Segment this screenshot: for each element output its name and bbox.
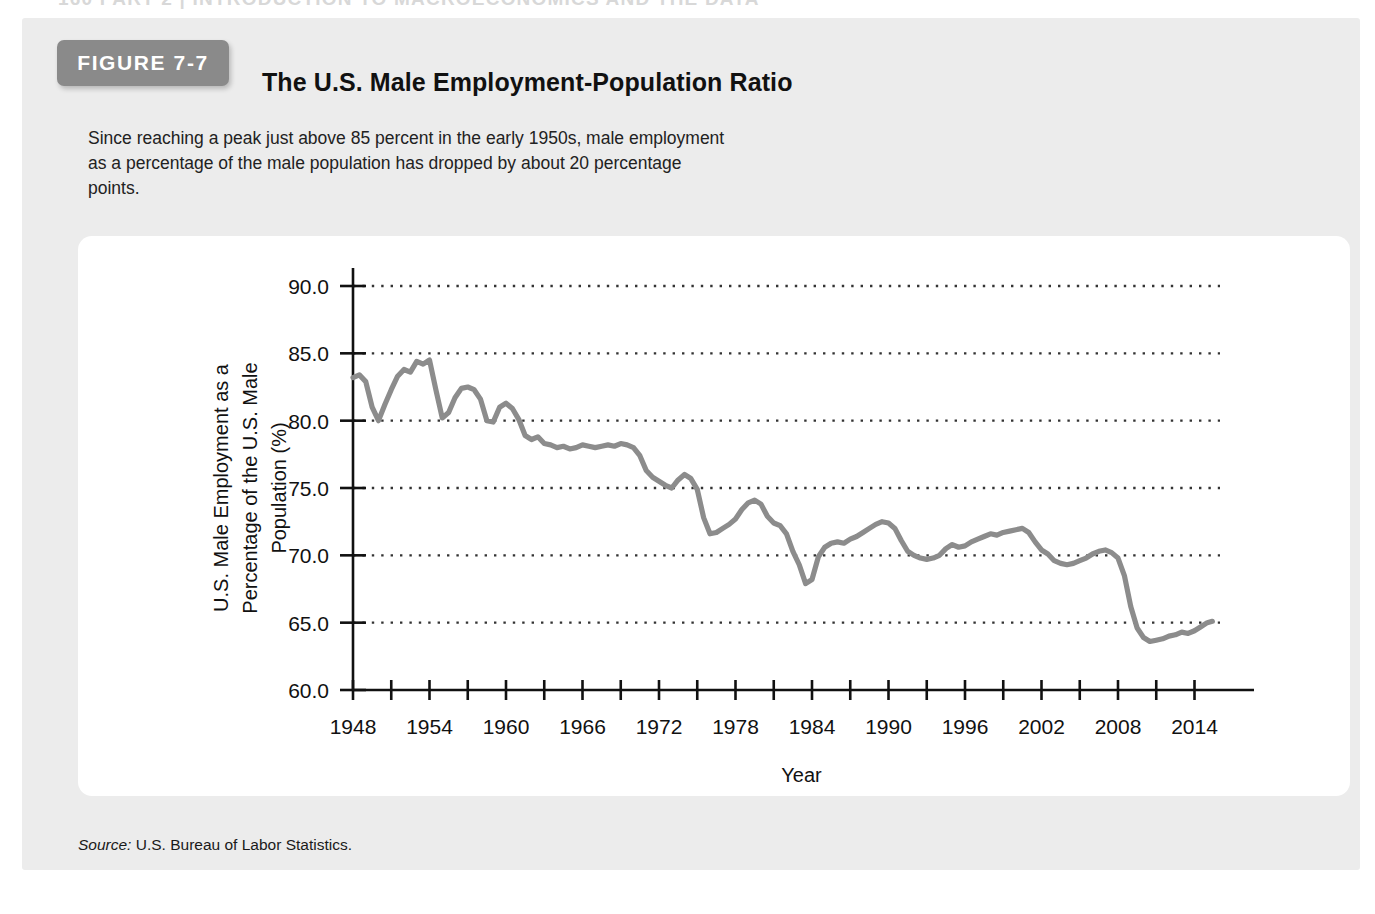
- x-axis-tick-label: 1984: [789, 715, 836, 738]
- x-axis-tick-label: 1996: [942, 715, 989, 738]
- data-series-line: [353, 360, 1212, 641]
- figure-panel: FIGURE 7-7 The U.S. Male Employment-Popu…: [22, 18, 1360, 870]
- chart-card: 60.065.070.075.080.085.090.0 19481954196…: [78, 236, 1350, 796]
- data-series-group: [353, 360, 1212, 641]
- x-axis-tick-label: 1966: [559, 715, 606, 738]
- x-axis-tick-labels-group: 1948195419601966197219781984199019962002…: [330, 715, 1219, 738]
- y-axis-title-line: Population (%): [268, 422, 290, 553]
- figure-caption: Since reaching a peak just above 85 perc…: [88, 126, 728, 201]
- x-axis-tick-label: 2002: [1018, 715, 1065, 738]
- gridlines-group: [353, 286, 1220, 623]
- running-head: 160 PART 2 | INTRODUCTION TO MACROECONOM…: [0, 0, 1375, 18]
- x-axis-tick-label: 1972: [636, 715, 683, 738]
- source-label: Source:: [78, 836, 131, 853]
- y-axis-tick-label: 60.0: [288, 679, 329, 702]
- x-axis-tick-label: 2008: [1095, 715, 1142, 738]
- figure-number-label: FIGURE 7-7: [57, 51, 229, 75]
- source-value: U.S. Bureau of Labor Statistics.: [131, 836, 352, 853]
- employment-population-ratio-line-chart: 60.065.070.075.080.085.090.0 19481954196…: [78, 236, 1350, 796]
- x-axis-tick-label: 1990: [865, 715, 912, 738]
- x-axis-tick-label: 1954: [406, 715, 453, 738]
- source-note: Source: U.S. Bureau of Labor Statistics.: [78, 836, 352, 854]
- y-axis-title-line: Percentage of the U.S. Male: [239, 362, 261, 613]
- x-axis-title: Year: [781, 764, 822, 786]
- x-axis-tick-label: 1978: [712, 715, 759, 738]
- y-axis-tick-label: 75.0: [288, 477, 329, 500]
- figure-title: The U.S. Male Employment-Population Rati…: [262, 68, 1162, 97]
- y-axis-tick-label: 90.0: [288, 275, 329, 298]
- x-axis-tick-label: 1948: [330, 715, 377, 738]
- axis-spines-group: [353, 268, 1254, 690]
- figure-page: 160 PART 2 | INTRODUCTION TO MACROECONOM…: [0, 0, 1375, 914]
- running-head-text: 160 PART 2 | INTRODUCTION TO MACROECONOM…: [58, 0, 760, 10]
- x-axis-tick-label: 2014: [1171, 715, 1218, 738]
- y-axis-tick-label: 70.0: [288, 544, 329, 567]
- y-axis-tick-label: 80.0: [288, 410, 329, 433]
- y-axis-tick-label: 65.0: [288, 612, 329, 635]
- x-axis-tick-label: 1960: [483, 715, 530, 738]
- figure-number-badge: FIGURE 7-7: [57, 40, 229, 86]
- y-axis-title-line: U.S. Male Employment as a: [210, 363, 232, 612]
- y-axis-tick-label: 85.0: [288, 342, 329, 365]
- y-axis-tick-labels-group: 60.065.070.075.080.085.090.0: [288, 275, 329, 702]
